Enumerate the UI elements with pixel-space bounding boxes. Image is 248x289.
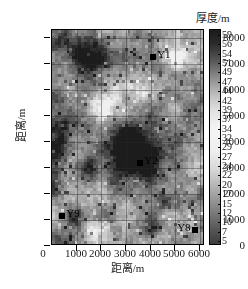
y-axis-tick bbox=[44, 89, 50, 90]
colorbar-tick-mark bbox=[218, 101, 221, 102]
colorbar-tick-mark bbox=[218, 35, 221, 36]
colorbar-tick-label: 5 bbox=[222, 236, 227, 246]
grid-line-vertical bbox=[126, 30, 127, 244]
x-axis-tick-label: 0 bbox=[40, 248, 46, 259]
colorbar-tick-mark bbox=[218, 166, 221, 167]
grid-line-horizontal bbox=[52, 90, 203, 91]
colorbar-tick-mark bbox=[218, 72, 221, 73]
x-axis-tick-label: 4000 bbox=[139, 248, 161, 259]
well-marker-label: Y8 bbox=[177, 222, 190, 233]
grid-line-vertical bbox=[151, 30, 152, 244]
x-axis-tick-label: 2000 bbox=[89, 248, 111, 259]
colorbar-tick-mark bbox=[218, 82, 221, 83]
colorbar-tick-mark bbox=[218, 54, 221, 55]
colorbar-tick-mark bbox=[218, 222, 221, 223]
colorbar-tick-mark bbox=[218, 138, 221, 139]
grid-line-horizontal bbox=[52, 142, 203, 143]
grid-line-vertical bbox=[175, 30, 176, 244]
colorbar-title: 厚度/m bbox=[196, 13, 230, 24]
colorbar-tick-mark bbox=[218, 194, 221, 195]
y-axis-tick bbox=[44, 193, 50, 194]
grid-line-vertical bbox=[101, 30, 102, 244]
well-marker-label: Y1 bbox=[157, 49, 170, 60]
x-axis-tick-label: 5000 bbox=[163, 248, 185, 259]
grid-line-vertical bbox=[200, 30, 201, 244]
x-axis-title: 距离/m bbox=[51, 263, 204, 274]
x-axis-tick-label: 3000 bbox=[114, 248, 136, 259]
well-marker-dot bbox=[59, 213, 65, 219]
y-axis-tick bbox=[44, 63, 50, 64]
colorbar-tick-mark bbox=[218, 232, 221, 233]
colorbar-tick-labels: 5956545149474442393734322927242220171512… bbox=[222, 29, 248, 245]
colorbar-tick-mark bbox=[218, 213, 221, 214]
grid-line-horizontal bbox=[52, 38, 203, 39]
x-axis-tick-label: 6000 bbox=[188, 248, 210, 259]
colorbar-tick-mark bbox=[218, 63, 221, 64]
colorbar-tick-mark bbox=[218, 129, 221, 130]
colorbar-tick-mark bbox=[218, 110, 221, 111]
well-marker-dot bbox=[192, 227, 198, 233]
grid-line-horizontal bbox=[52, 116, 203, 117]
y-axis-tick bbox=[44, 219, 50, 220]
grid-line-horizontal bbox=[52, 168, 203, 169]
y-axis-tick bbox=[44, 245, 50, 246]
y-axis-tick bbox=[44, 115, 50, 116]
figure-root: 厚度/m Y1Y2Y9Y8 01000200030004000500060007… bbox=[0, 0, 248, 289]
y-axis-tick bbox=[44, 141, 50, 142]
y-axis-tick bbox=[44, 37, 50, 38]
y-axis-title: 距离/m bbox=[16, 91, 27, 161]
colorbar-tick-mark bbox=[218, 241, 221, 242]
well-marker-dot bbox=[150, 54, 156, 60]
colorbar-tick-mark bbox=[218, 204, 221, 205]
colorbar-tick-mark bbox=[218, 119, 221, 120]
colorbar-tick-mark bbox=[218, 157, 221, 158]
colorbar-tick-mark bbox=[218, 175, 221, 176]
well-marker-dot bbox=[137, 160, 143, 166]
y-axis-tick bbox=[44, 167, 50, 168]
well-marker-label: Y9 bbox=[66, 208, 79, 219]
colorbar-tick-mark bbox=[218, 147, 221, 148]
well-marker-label: Y2 bbox=[144, 155, 157, 166]
colorbar-tick-mark bbox=[218, 185, 221, 186]
grid-line-horizontal bbox=[52, 64, 203, 65]
grid-line-horizontal bbox=[52, 194, 203, 195]
colorbar-tick-mark bbox=[218, 91, 221, 92]
colorbar-tick-mark bbox=[218, 44, 221, 45]
x-axis-tick-label: 1000 bbox=[65, 248, 87, 259]
heatmap-plot-area: Y1Y2Y9Y8 bbox=[51, 29, 204, 245]
